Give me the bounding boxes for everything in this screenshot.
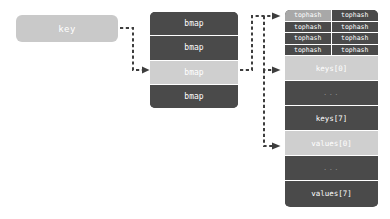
tophash-label: tophash bbox=[341, 23, 368, 31]
key-box-label: key bbox=[58, 24, 75, 34]
tophash-cell-2-0: tophash bbox=[285, 33, 332, 45]
slot-label: values[7] bbox=[311, 189, 352, 198]
tophash-cell-1-0: tophash bbox=[285, 22, 332, 34]
tophash-cell-0-1: tophash bbox=[332, 10, 379, 22]
slot-values-0-highlighted: values[0] bbox=[285, 131, 378, 156]
slot-keys-0-highlighted: keys[0] bbox=[285, 56, 378, 81]
bmap-column: bmap bmap bmap bmap bbox=[150, 12, 238, 108]
bmap-cell-label: bmap bbox=[184, 43, 203, 52]
slot-keys-ellipsis: ... bbox=[285, 81, 378, 106]
tophash-label: tophash bbox=[294, 46, 321, 54]
slot-label: values[0] bbox=[311, 139, 352, 148]
tophash-cell-1-1: tophash bbox=[332, 22, 379, 34]
tophash-label: tophash bbox=[294, 23, 321, 31]
bmap-cell-label: bmap bbox=[184, 92, 203, 101]
slot-label: ... bbox=[323, 89, 340, 97]
bmap-cell-label: bmap bbox=[184, 19, 203, 28]
bmap-cell-1: bmap bbox=[150, 36, 238, 60]
arrowhead-bmap-to-values0 bbox=[272, 143, 281, 150]
slot-values-7: values[7] bbox=[285, 181, 378, 206]
slot-label: keys[7] bbox=[316, 114, 348, 123]
tophash-label: tophash bbox=[341, 34, 368, 42]
tophash-label: tophash bbox=[341, 11, 368, 19]
bucket-panel: tophash tophash tophash tophash tophash … bbox=[285, 10, 378, 207]
tophash-grid: tophash tophash tophash tophash tophash … bbox=[285, 10, 378, 56]
bmap-cell-2-highlighted: bmap bbox=[150, 61, 238, 85]
bmap-cell-3: bmap bbox=[150, 85, 238, 108]
bmap-cell-label: bmap bbox=[184, 68, 203, 77]
tophash-cell-3-0: tophash bbox=[285, 45, 332, 57]
arrowhead-bmap-to-tophash bbox=[272, 13, 281, 20]
tophash-cell-3-1: tophash bbox=[332, 45, 379, 57]
tophash-label: tophash bbox=[294, 34, 321, 42]
arrow-bmap-to-keys0 bbox=[264, 16, 272, 70]
diagram-canvas: key bmap bmap bmap bmap tophash tophash … bbox=[0, 0, 390, 219]
tophash-label: tophash bbox=[341, 46, 368, 54]
slot-label: keys[0] bbox=[316, 64, 348, 73]
slot-values-ellipsis: ... bbox=[285, 156, 378, 181]
slot-keys-7: keys[7] bbox=[285, 106, 378, 131]
bmap-cell-0: bmap bbox=[150, 12, 238, 36]
key-box: key bbox=[16, 15, 118, 42]
tophash-cell-0-0-highlighted: tophash bbox=[285, 10, 332, 22]
arrowhead-key-to-bmap bbox=[142, 67, 150, 74]
slot-label: ... bbox=[323, 164, 340, 172]
arrow-key-to-bmap bbox=[120, 28, 142, 70]
tophash-label: tophash bbox=[294, 11, 321, 19]
arrow-bmap-trunk bbox=[240, 16, 272, 70]
arrowhead-bmap-to-keys0 bbox=[272, 67, 281, 74]
tophash-cell-2-1: tophash bbox=[332, 33, 379, 45]
arrow-bmap-to-values0 bbox=[264, 70, 272, 146]
